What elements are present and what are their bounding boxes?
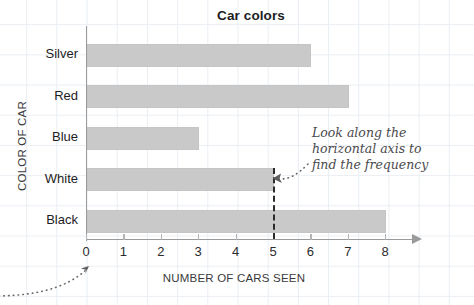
bar-silver xyxy=(87,44,311,67)
x-tick-mark-7 xyxy=(348,234,349,240)
annotation-line-1: Look along the xyxy=(312,125,467,141)
annotation-line-2: horizontal axis to xyxy=(312,141,467,157)
x-axis-line xyxy=(86,239,414,240)
bar-blue xyxy=(87,127,199,150)
frequency-annotation: Look along the horizontal axis to find t… xyxy=(312,125,467,173)
origin-arrow-path xyxy=(0,270,86,296)
chart-title: Car colors xyxy=(0,8,474,23)
bar-red xyxy=(87,85,349,108)
x-tick-label-8: 8 xyxy=(375,244,395,259)
category-label-red: Red xyxy=(8,88,78,103)
x-tick-mark-3 xyxy=(198,234,199,240)
x-axis-label: NUMBER OF CARS SEEN xyxy=(84,272,384,284)
annotation-line-3: find the frequency xyxy=(312,157,467,173)
chart-page: Car colors COLOR OF CAR 012345678 Silver… xyxy=(0,0,474,305)
x-tick-label-1: 1 xyxy=(113,244,133,259)
x-tick-label-2: 2 xyxy=(151,244,171,259)
bar-black xyxy=(87,210,386,233)
x-tick-mark-8 xyxy=(385,234,386,240)
x-tick-label-0: 0 xyxy=(76,244,96,259)
x-tick-label-7: 7 xyxy=(338,244,358,259)
x-tick-mark-4 xyxy=(236,234,237,240)
x-tick-mark-1 xyxy=(123,234,124,240)
category-label-black: Black xyxy=(8,212,78,227)
x-tick-label-5: 5 xyxy=(263,244,283,259)
x-tick-label-3: 3 xyxy=(188,244,208,259)
x-tick-mark-0 xyxy=(86,234,87,240)
category-label-silver: Silver xyxy=(8,46,78,61)
x-tick-mark-2 xyxy=(161,234,162,240)
x-tick-label-4: 4 xyxy=(226,244,246,259)
category-label-blue: Blue xyxy=(8,129,78,144)
bar-white xyxy=(87,168,274,191)
x-tick-label-6: 6 xyxy=(300,244,320,259)
x-tick-mark-6 xyxy=(310,234,311,240)
x-axis-arrow-icon xyxy=(412,234,422,244)
frequency-guide-line xyxy=(273,168,275,239)
category-label-white: White xyxy=(8,171,78,186)
